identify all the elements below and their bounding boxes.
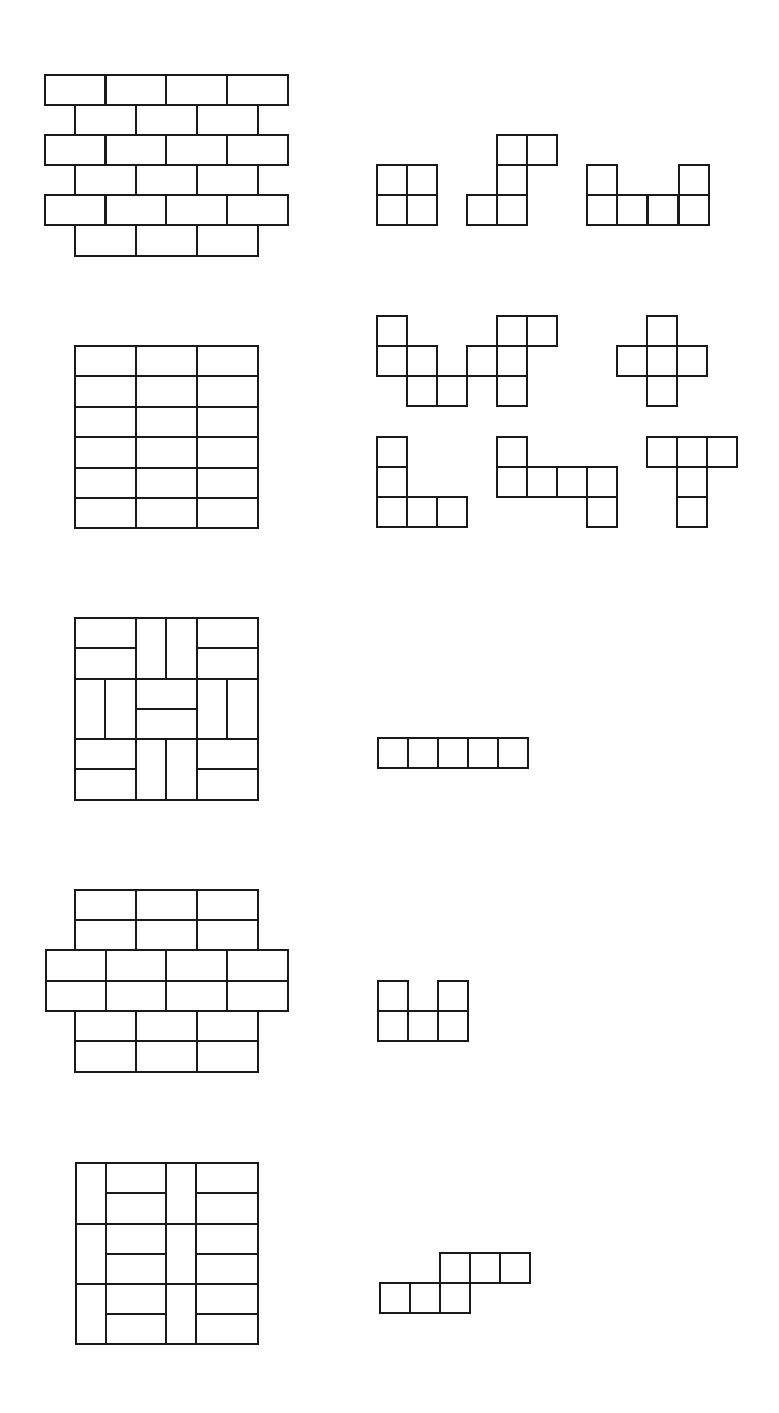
polyomino-cell — [407, 165, 437, 195]
polyomino-cell — [527, 135, 557, 165]
brick-tile — [106, 1254, 166, 1284]
brick-tile — [75, 769, 136, 800]
brick-tile — [75, 346, 136, 376]
brick-tile — [196, 1224, 258, 1254]
brick-tile — [136, 498, 197, 528]
polyomino-cell — [440, 1253, 470, 1283]
polyomino-cell — [438, 738, 468, 768]
polyomino-cell — [498, 738, 528, 768]
brick-tile — [75, 679, 105, 739]
brick-tile — [106, 1314, 166, 1344]
polyomino-cell — [497, 165, 527, 195]
X-pentomino — [617, 316, 707, 406]
brick-tile — [106, 135, 166, 165]
brick-tile — [196, 1284, 258, 1314]
tiling-4 — [46, 890, 288, 1072]
brick-tile — [136, 165, 197, 195]
T-pentomino — [647, 437, 737, 527]
brick-tile — [136, 225, 197, 256]
tiling-patterns — [45, 75, 288, 1344]
brick-tile — [197, 225, 258, 256]
brick-tile — [106, 75, 166, 105]
polyomino-cell — [647, 316, 677, 346]
brick-tile — [75, 225, 136, 256]
polyomino-cell — [438, 981, 468, 1011]
polyomino-cell — [377, 346, 407, 376]
brick-tile — [75, 1041, 136, 1072]
brick-tile — [75, 920, 136, 950]
brick-tile — [227, 679, 258, 739]
brick-tile — [45, 135, 105, 165]
tiling-1 — [45, 75, 288, 256]
polyomino-cell — [378, 1011, 408, 1041]
brick-tile — [197, 920, 258, 950]
polyomino-cell — [437, 497, 467, 527]
polyomino-cell — [497, 135, 527, 165]
polyomino-cell — [407, 346, 437, 376]
polyomino-cell — [497, 346, 527, 376]
brick-tile — [166, 1163, 196, 1224]
polyomino-cell — [617, 346, 647, 376]
brick-tile — [197, 769, 258, 800]
N-hexomino — [380, 1253, 530, 1313]
brick-tile — [75, 648, 136, 679]
brick-tile — [197, 1041, 258, 1072]
I-pentomino — [378, 738, 528, 768]
brick-tile — [136, 679, 197, 709]
brick-tile — [196, 1254, 258, 1284]
brick-tile — [166, 1224, 196, 1284]
tiling-3 — [75, 618, 258, 800]
brick-tile — [197, 1011, 258, 1041]
polyomino-cell — [497, 376, 527, 406]
brick-tile — [136, 376, 197, 407]
brick-tile — [75, 739, 136, 769]
polyomino-cell — [527, 467, 557, 497]
brick-tile — [197, 165, 258, 195]
polyomino-cell — [527, 316, 557, 346]
brick-tile — [136, 437, 197, 468]
brick-tile — [75, 890, 136, 920]
tiling-diagram-page — [0, 0, 779, 1413]
brick-tile — [45, 75, 105, 105]
brick-tile — [197, 468, 258, 498]
brick-tile — [75, 105, 136, 135]
brick-tile — [75, 468, 136, 498]
brick-tile — [106, 950, 166, 981]
brick-tile — [197, 498, 258, 528]
polyomino-cell — [468, 738, 498, 768]
polyomino-cell — [377, 165, 407, 195]
brick-tile — [76, 1163, 106, 1224]
brick-tile — [75, 1011, 136, 1041]
brick-tile — [196, 1163, 258, 1193]
polyomino-cell — [470, 1253, 500, 1283]
brick-tile — [197, 739, 258, 769]
U-hexomino — [587, 165, 709, 225]
W-pentomino — [377, 316, 467, 406]
brick-tile — [197, 890, 258, 920]
brick-tile — [136, 407, 197, 437]
brick-tile — [166, 739, 197, 800]
polyomino-cell — [647, 437, 677, 467]
brick-tile — [197, 105, 258, 135]
brick-tile — [227, 950, 288, 981]
tiling-2 — [75, 346, 258, 528]
brick-tile — [136, 346, 197, 376]
polyomino-cell — [587, 497, 617, 527]
polyomino-cell — [380, 1283, 410, 1313]
polyomino-cell — [377, 467, 407, 497]
polyomino-cell — [497, 195, 527, 225]
polyomino-cell — [377, 437, 407, 467]
polyomino-cell — [377, 497, 407, 527]
polyomino-cell — [677, 497, 707, 527]
polyomino-cell — [407, 497, 437, 527]
brick-tile — [197, 679, 227, 739]
O-tetromino — [377, 165, 437, 225]
S-pentomino — [467, 135, 557, 225]
brick-tile — [166, 950, 227, 981]
polyomino-cell — [467, 346, 497, 376]
polyomino-cell — [377, 316, 407, 346]
polyomino-cell — [378, 981, 408, 1011]
brick-tile — [75, 165, 136, 195]
polyomino-cell — [408, 1011, 438, 1041]
polyomino-cell — [677, 467, 707, 497]
